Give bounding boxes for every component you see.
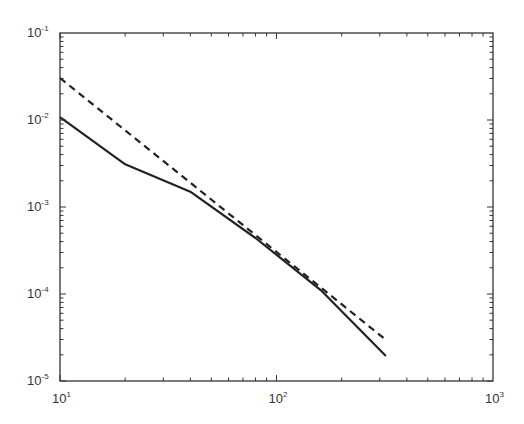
tick-labels: 10110210310-110-210-310-410-5 — [27, 24, 504, 406]
y-tick-label: 10-3 — [27, 198, 49, 214]
plot-frame — [60, 33, 493, 381]
series-lines — [60, 78, 386, 356]
y-tick-label: 10-5 — [27, 372, 49, 388]
y-tick-label: 10-2 — [27, 111, 49, 127]
x-tick-label: 102 — [269, 390, 288, 406]
y-tick-label: 10-1 — [27, 24, 49, 40]
axis-ticks — [60, 33, 493, 381]
dashed-series-line — [60, 78, 386, 340]
y-tick-label: 10-4 — [27, 285, 49, 301]
log-log-chart: 10110210310-110-210-310-410-5 — [0, 0, 524, 424]
solid-series-line — [60, 117, 386, 356]
x-tick-label: 103 — [485, 390, 504, 406]
x-tick-label: 101 — [52, 390, 71, 406]
